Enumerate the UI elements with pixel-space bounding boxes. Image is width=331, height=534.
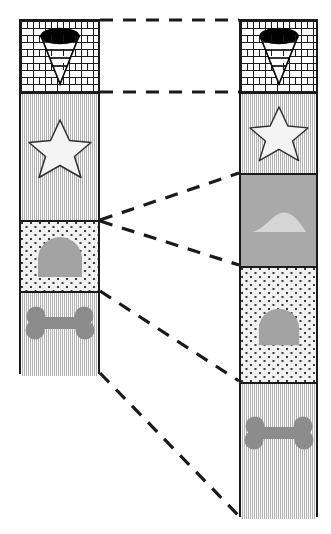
unit-brick-tornado-left[interactable] <box>21 21 98 94</box>
bone-icon <box>25 306 95 340</box>
unit-dotted-dome-left[interactable] <box>21 222 98 293</box>
correlation-line-star-base-up <box>100 173 239 220</box>
correlation-line-dome-base <box>100 291 239 381</box>
star-icon <box>248 105 310 163</box>
correlation-line-section-base <box>100 373 239 516</box>
bone-icon <box>244 416 314 450</box>
hill-icon <box>251 209 307 233</box>
tornado-icon <box>254 26 304 88</box>
star-icon <box>27 118 93 180</box>
unit-lined-bone-right[interactable] <box>241 384 316 519</box>
unit-lined-star-left[interactable] <box>21 94 98 222</box>
dome-icon <box>257 308 301 346</box>
dome-icon <box>36 237 84 277</box>
unit-lined-bone-left[interactable] <box>21 293 98 376</box>
tornado-icon <box>35 26 85 88</box>
unit-dotted-dome-right[interactable] <box>241 268 316 384</box>
unit-lined-star-right[interactable] <box>241 94 316 175</box>
left-stratigraphic-column <box>19 19 100 374</box>
figure-canvas <box>0 0 331 534</box>
unit-brick-tornado-right[interactable] <box>241 21 316 94</box>
right-stratigraphic-column <box>239 19 318 517</box>
unit-solid-hill-right[interactable] <box>241 175 316 268</box>
correlation-line-star-base-dn <box>100 221 239 265</box>
